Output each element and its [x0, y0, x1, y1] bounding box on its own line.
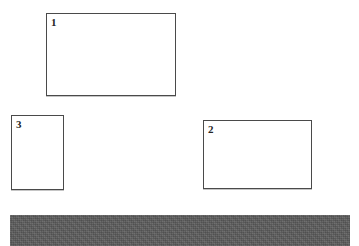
rectangle-3-label: 3 [16, 118, 22, 130]
rectangle-3[interactable]: 3 [11, 115, 64, 190]
rectangle-1-label: 1 [51, 16, 57, 28]
diagram-canvas: 1 3 2 [0, 0, 359, 246]
rectangle-1[interactable]: 1 [46, 13, 176, 96]
rectangle-2[interactable]: 2 [203, 120, 312, 189]
ground-bar [10, 215, 350, 246]
rectangle-2-label: 2 [208, 123, 214, 135]
